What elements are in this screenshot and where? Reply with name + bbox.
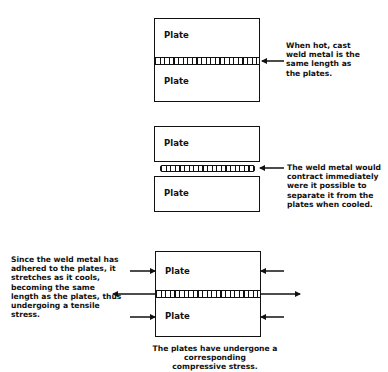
- arrows-layer: [0, 0, 388, 366]
